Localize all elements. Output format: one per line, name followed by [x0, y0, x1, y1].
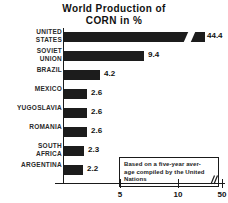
- category-label-line: ROMANIA: [2, 123, 62, 131]
- category-label: YUGOSLAVIA: [2, 104, 62, 112]
- bar: [64, 108, 87, 118]
- category-label-line: SOUTH: [2, 142, 62, 150]
- category-label-line: SOVIET: [2, 47, 62, 55]
- category-label-line: MEXICO: [2, 85, 62, 93]
- category-label-line: AFRICA: [2, 150, 62, 158]
- bar: [64, 165, 83, 175]
- chart-row: MEXICO 2.6: [0, 85, 228, 104]
- category-label-line: ARGENTINA: [2, 161, 62, 169]
- value-label: 2.3: [88, 145, 99, 154]
- bar: [64, 51, 144, 61]
- source-note-box: Based on a five-year aver- age compiled …: [119, 157, 219, 187]
- value-label: 2.2: [87, 164, 98, 173]
- bar-chart: World Production of CORN in % UNITED STA…: [0, 0, 228, 203]
- chart-title-line-1: World Production of: [0, 3, 228, 15]
- axis-tick-label: 5: [118, 190, 122, 199]
- chart-title-line-2: CORN in %: [0, 15, 228, 27]
- bar: [64, 89, 87, 99]
- value-label: 4.2: [104, 69, 115, 78]
- value-label: 9.4: [148, 50, 159, 59]
- category-label-line: UNITED: [2, 28, 62, 36]
- category-label: SOVIET UNION: [2, 47, 62, 62]
- value-label: 2.6: [91, 88, 102, 97]
- source-note-line: Nations: [124, 176, 214, 184]
- chart-row: SOVIET UNION 9.4: [0, 47, 228, 66]
- bar: [64, 146, 84, 156]
- value-label: 2.6: [91, 107, 102, 116]
- category-label-line: UNION: [2, 55, 62, 63]
- value-label: 2.6: [91, 126, 102, 135]
- category-label: ROMANIA: [2, 123, 62, 131]
- bar: [64, 70, 100, 80]
- category-label-line: BRAZIL: [2, 66, 62, 74]
- axis-tick-label: 10: [174, 190, 183, 199]
- chart-row: ROMANIA 2.6: [0, 123, 228, 142]
- source-note-line: age compiled by the United: [124, 169, 214, 177]
- chart-row: YUGOSLAVIA 2.6: [0, 104, 228, 123]
- value-label: 44.4: [207, 31, 223, 40]
- chart-row: UNITED STATES 44.4: [0, 28, 228, 47]
- plot-area: UNITED STATES 44.4 SOVIET UNION 9.4 BRAZ…: [0, 28, 228, 188]
- chart-row: BRAZIL 4.2: [0, 66, 228, 85]
- bar: [64, 127, 87, 137]
- axis-tick-mark: [222, 179, 223, 188]
- chart-title: World Production of CORN in %: [0, 3, 228, 27]
- category-label: BRAZIL: [2, 66, 62, 74]
- category-label-line: STATES: [2, 36, 62, 44]
- source-note-line: Based on a five-year aver-: [124, 161, 214, 169]
- category-label: MEXICO: [2, 85, 62, 93]
- category-label: UNITED STATES: [2, 28, 62, 43]
- axis-tick-label: 50: [218, 190, 227, 199]
- category-label: SOUTH AFRICA: [2, 142, 62, 157]
- category-label: ARGENTINA: [2, 161, 62, 169]
- category-label-line: YUGOSLAVIA: [2, 104, 62, 112]
